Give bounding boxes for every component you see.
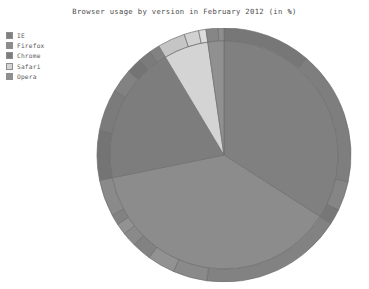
legend-swatch-icon <box>6 32 13 39</box>
legend-item-label: Firefox <box>17 42 44 49</box>
legend-swatch-icon <box>6 73 13 80</box>
legend-item-label: IE <box>17 32 25 39</box>
ring-segment-opera-0[interactable] <box>206 28 219 42</box>
chart-title: Browser usage by version in February 201… <box>0 7 369 16</box>
legend-item-label: Safari <box>17 63 41 70</box>
chart-legend: IE Firefox Chrome Safari Opera <box>6 30 68 82</box>
legend-item-ie[interactable]: IE <box>6 30 68 40</box>
legend-item-opera[interactable]: Opera <box>6 72 68 82</box>
legend-swatch-icon <box>6 52 13 59</box>
legend-item-label: Opera <box>17 73 37 80</box>
legend-item-chrome[interactable]: Chrome <box>6 51 68 61</box>
pie-inner-slices <box>110 41 338 269</box>
ring-segment-opera-1[interactable] <box>218 28 224 41</box>
legend-item-safari[interactable]: Safari <box>6 61 68 71</box>
legend-item-firefox[interactable]: Firefox <box>6 40 68 50</box>
legend-swatch-icon <box>6 42 13 49</box>
pie-chart[interactable] <box>96 28 352 282</box>
pie-chart-svg <box>96 28 352 282</box>
legend-item-label: Chrome <box>17 52 41 59</box>
legend-swatch-icon <box>6 63 13 70</box>
